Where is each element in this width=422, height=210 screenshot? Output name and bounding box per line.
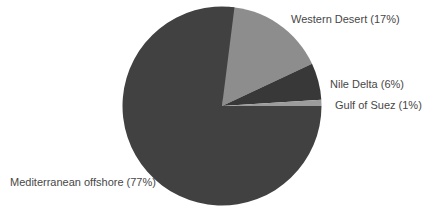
slice-label-nile-delta: Nile Delta (6%) <box>330 78 404 91</box>
slice-label-mediterranean-offshore: Mediterranean offshore (77%) <box>10 176 156 189</box>
slice-label-western-desert: Western Desert (17%) <box>291 13 400 26</box>
slice-label-gulf-of-suez: Gulf of Suez (1%) <box>335 99 422 112</box>
pie-chart-figure: Western Desert (17%) Nile Delta (6%) Gul… <box>0 0 422 210</box>
